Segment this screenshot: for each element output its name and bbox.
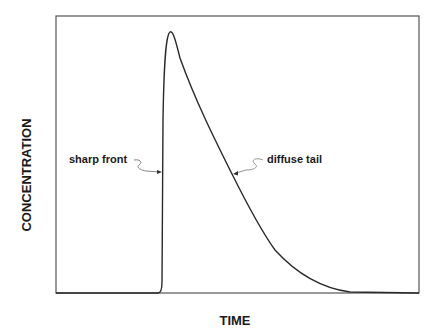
concentration-time-chart: CONCENTRATION TIME sharp front diffuse t… — [0, 0, 437, 334]
x-axis-label: TIME — [219, 313, 250, 328]
sharp-front-arrowhead-icon — [157, 170, 162, 174]
annotation-sharp-front: sharp front — [69, 153, 127, 165]
diffuse-tail-arrow-icon — [236, 159, 263, 173]
annotation-diffuse-tail: diffuse tail — [267, 153, 322, 165]
sharp-front-arrow-icon — [134, 160, 160, 172]
y-axis-label: CONCENTRATION — [19, 118, 34, 231]
diffuse-tail-arrowhead-icon — [233, 171, 238, 176]
